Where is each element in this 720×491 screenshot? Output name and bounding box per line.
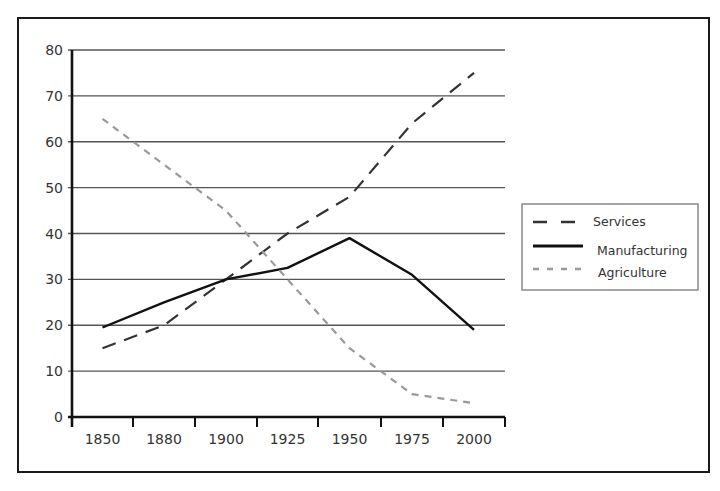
legend-label-agriculture: Agriculture (598, 265, 667, 280)
x-tick-label: 1975 (394, 431, 430, 447)
line-chart: 01020304050607080 1850188019001925195019… (0, 0, 720, 491)
y-tick-label: 10 (45, 363, 63, 379)
x-tick-label: 2000 (456, 431, 492, 447)
legend: ServicesManufacturingAgriculture (522, 204, 698, 290)
legend-label-manufacturing: Manufacturing (597, 243, 688, 258)
y-tick-label: 30 (45, 271, 63, 287)
y-tick-label: 80 (45, 42, 63, 58)
x-tick-label: 1925 (270, 431, 306, 447)
x-tick-label: 1880 (146, 431, 182, 447)
y-tick-label: 70 (45, 88, 63, 104)
x-tick-label: 1950 (332, 431, 368, 447)
x-tick-label: 1850 (85, 431, 121, 447)
y-tick-label: 20 (45, 317, 63, 333)
legend-label-services: Services (593, 214, 646, 229)
x-tick-label: 1900 (208, 431, 244, 447)
y-tick-label: 60 (45, 134, 63, 150)
y-tick-label: 40 (45, 226, 63, 242)
y-tick-label: 50 (45, 180, 63, 196)
y-tick-label: 0 (54, 409, 63, 425)
